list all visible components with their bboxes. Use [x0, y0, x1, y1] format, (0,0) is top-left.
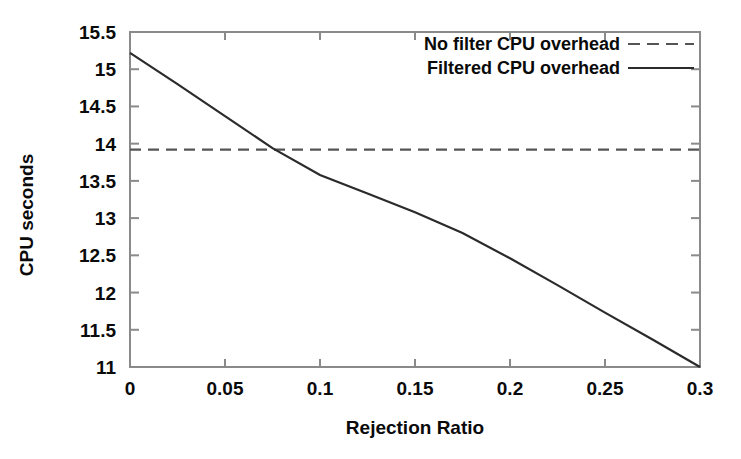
y-tick-label: 11 — [96, 357, 117, 378]
x-tick-label: 0.3 — [687, 378, 713, 399]
y-tick-label: 12.5 — [79, 245, 116, 266]
data-series-group — [130, 53, 700, 367]
x-tick-label: 0.1 — [307, 378, 334, 399]
y-tick-label: 15 — [95, 59, 117, 80]
x-tick-label: 0.2 — [497, 378, 523, 399]
y-tick-label: 15.5 — [79, 22, 116, 43]
cpu-overhead-line-chart: 00.050.10.150.20.250.3 1111.51212.51313.… — [0, 0, 741, 459]
y-tick-label: 13.5 — [79, 171, 116, 192]
x-tick-label: 0.05 — [207, 378, 244, 399]
x-axis-title: Rejection Ratio — [346, 417, 484, 438]
y-tick-label: 14.5 — [79, 96, 116, 117]
y-tick-label: 11.5 — [80, 320, 116, 341]
y-axis-title: CPU seconds — [16, 154, 37, 276]
y-tick-label: 13 — [95, 208, 116, 229]
x-axis-tick-labels: 00.050.10.150.20.250.3 — [125, 378, 714, 399]
y-tick-label: 14 — [95, 134, 117, 155]
x-tick-label: 0 — [125, 378, 136, 399]
legend-item-label-filtered: Filtered CPU overhead — [427, 58, 620, 78]
x-tick-label: 0.25 — [587, 378, 624, 399]
plot-frame — [130, 32, 700, 367]
y-axis-tick-labels: 1111.51212.51313.51414.51515.5 — [79, 22, 116, 378]
chart-legend: No filter CPU overhead Filtered CPU over… — [424, 34, 694, 78]
x-tick-label: 0.15 — [397, 378, 434, 399]
y-tick-label: 12 — [95, 283, 116, 304]
x-axis-ticks — [225, 32, 605, 367]
chart-figure: 00.050.10.150.20.250.3 1111.51212.51313.… — [0, 0, 741, 459]
legend-item-label-no-filter: No filter CPU overhead — [424, 34, 620, 54]
series-line-filtered-cpu-overhead — [130, 53, 700, 367]
y-axis-ticks — [130, 69, 700, 330]
